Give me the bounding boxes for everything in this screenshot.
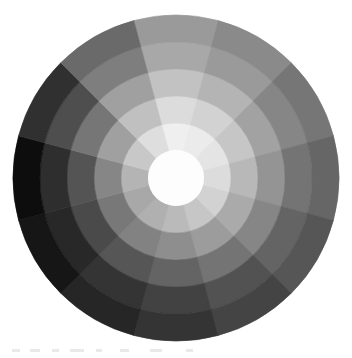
wheel-segment — [148, 69, 204, 99]
wheel-center-core — [148, 150, 204, 206]
wheel-segment — [40, 143, 71, 213]
wheel-segment — [13, 136, 45, 220]
wheel-segment — [155, 96, 197, 125]
color-wheel-figure: Grayscale colour wheel Circular colour w… — [0, 0, 352, 358]
figure-root: Grayscale colour wheel Circular colour w… — [0, 0, 352, 358]
wheel-segment — [134, 15, 218, 47]
wheel-segment — [134, 309, 218, 341]
wheel-segment — [307, 136, 339, 220]
wheel-segment — [255, 150, 285, 206]
wheel-segment — [67, 150, 97, 206]
wheel-segment — [148, 257, 204, 287]
wheel-segment — [141, 283, 211, 314]
wheel-segment — [94, 157, 123, 199]
wheel-segment — [281, 143, 312, 213]
wheel-segment — [155, 231, 197, 260]
wheel-segment — [141, 42, 211, 73]
wheel-segment — [229, 157, 258, 199]
